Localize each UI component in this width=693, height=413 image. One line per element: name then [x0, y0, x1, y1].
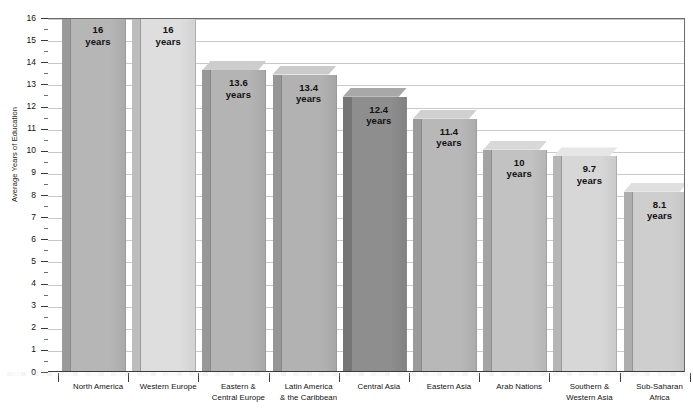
bar-value-unit: years [366, 115, 391, 126]
bar-top-face [483, 141, 547, 150]
y-axis-minor-tick [44, 272, 48, 273]
x-axis-tick [58, 373, 59, 382]
bar-value-number: 16 [93, 24, 104, 35]
bar-side-face [553, 156, 561, 371]
x-axis-label-line1: Southern & [570, 382, 610, 391]
bar-front-face: 9.7years [561, 156, 617, 371]
y-axis-tick-label: 16 [0, 14, 36, 23]
x-axis-label-line1: Eastern & [221, 382, 256, 391]
y-axis-tick-label: 10 [0, 146, 36, 155]
y-axis-minor-tick [44, 184, 48, 185]
x-axis-tick [549, 373, 550, 382]
bar[interactable]: 9.7years [561, 156, 617, 371]
y-axis-tick [41, 18, 48, 19]
bar-value-number: 16 [163, 24, 174, 35]
bar-side-face [413, 119, 421, 371]
bar-front-face: 13.4years [281, 75, 337, 371]
y-axis-tick [41, 239, 48, 240]
y-axis-tick-label: 5 [0, 257, 36, 266]
bar-front-face: 11.4years [421, 119, 477, 371]
y-axis-tick [41, 40, 48, 41]
bar-side-face [132, 18, 140, 371]
y-axis-tick-label: 14 [0, 58, 36, 67]
bar[interactable]: 13.4years [281, 75, 337, 371]
y-axis-tick [41, 62, 48, 63]
bar[interactable]: 16years [140, 18, 196, 371]
bar-value-unit: years [647, 210, 672, 221]
y-axis-tick [41, 107, 48, 108]
y-axis-minor-tick [44, 339, 48, 340]
bar-value-label: 16years [71, 24, 125, 47]
y-axis-tick-label: 6 [0, 235, 36, 244]
bar-value-label: 12.4years [352, 104, 406, 127]
bar[interactable]: 11.4years [421, 119, 477, 371]
bar-value-label: 10years [492, 157, 546, 180]
bar-value-unit: years [156, 36, 181, 47]
bar-chart: Average Years of Education 16years16year… [0, 0, 693, 413]
bar-value-number: 13.6 [229, 77, 248, 88]
bar-top-face [413, 110, 477, 119]
y-axis-tick-label: 13 [0, 80, 36, 89]
bar-value-label: 16years [141, 24, 195, 47]
y-axis-tick [41, 350, 48, 351]
bar-front-face: 10years [491, 150, 547, 371]
y-axis-tick-label: 4 [0, 279, 36, 288]
y-axis-tick-label: 7 [0, 213, 36, 222]
bar-value-label: 11.4years [422, 126, 476, 149]
x-axis-tick [620, 373, 621, 382]
bar[interactable]: 8.1years [632, 192, 685, 371]
bar-value-unit: years [577, 175, 602, 186]
bar-front-face: 16years [70, 18, 126, 371]
bar-value-number: 12.4 [369, 104, 388, 115]
y-axis-minor-tick [44, 295, 48, 296]
y-axis-tick-label: 15 [0, 36, 36, 45]
y-axis-tick [41, 173, 48, 174]
bar-top-face [343, 88, 407, 97]
y-axis-tick-label: 0 [0, 368, 36, 377]
bar[interactable]: 12.4years [351, 97, 407, 371]
y-axis-tick-label: 12 [0, 102, 36, 111]
x-axis-tick [339, 373, 340, 382]
bar-value-unit: years [507, 168, 532, 179]
x-axis-tick [690, 373, 691, 382]
y-axis-tick [41, 328, 48, 329]
y-axis-minor-tick [44, 95, 48, 96]
y-axis-tick [41, 195, 48, 196]
x-axis-label-line2: Central Europe [212, 393, 265, 402]
x-axis-tick [479, 373, 480, 382]
x-axis-tick [269, 373, 270, 382]
y-axis-tick-label: 2 [0, 323, 36, 332]
bar-side-face [624, 192, 632, 371]
bar-value-number: 8.1 [653, 199, 667, 210]
bar[interactable]: 13.6years [210, 70, 266, 371]
y-axis-minor-tick [44, 317, 48, 318]
bar-value-label: 13.6years [211, 77, 265, 100]
bar[interactable]: 10years [491, 150, 547, 371]
x-axis-label-line1: Eastern Asia [427, 382, 471, 391]
y-axis-minor-tick [44, 206, 48, 207]
y-axis-minor-tick [44, 140, 48, 141]
bar-side-face [343, 97, 351, 371]
y-axis-tick-label: 3 [0, 301, 36, 310]
bar-front-face: 12.4years [351, 97, 407, 371]
x-axis-label-line1: North America [73, 382, 123, 391]
y-axis-tick [41, 129, 48, 130]
y-axis-minor-tick [44, 162, 48, 163]
bar-front-face: 8.1years [632, 192, 685, 371]
bar[interactable]: 16years [70, 18, 126, 371]
x-axis-category-label: Sub-SaharanAfrica [614, 382, 693, 403]
y-axis-minor-tick [44, 118, 48, 119]
bar-value-unit: years [296, 93, 321, 104]
bar-side-face [62, 18, 70, 371]
x-axis-label-line1: Latin America [285, 382, 333, 391]
y-axis-minor-tick [44, 228, 48, 229]
x-axis-label-line1: Central Asia [357, 382, 400, 391]
bar-value-label: 13.4years [282, 82, 336, 105]
x-axis-label-line2: Africa [649, 393, 669, 402]
y-axis-minor-tick [44, 361, 48, 362]
y-axis-tick [41, 84, 48, 85]
y-axis-tick-label: 8 [0, 191, 36, 200]
bar-side-face [202, 70, 210, 371]
bar-top-face [553, 147, 617, 156]
bar-side-face [483, 150, 491, 371]
